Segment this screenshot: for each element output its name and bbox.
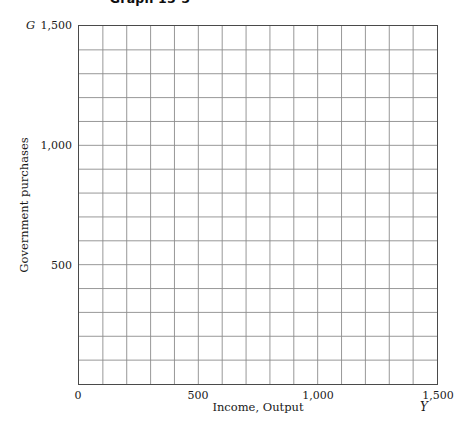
x-axis-title: Income, Output [78,400,438,414]
x-axis-variable-label: Y [420,400,428,414]
grid-lines [79,26,437,384]
plot-area[interactable] [78,25,438,385]
y-axis-tick-label: 1,500 [8,20,72,31]
y-axis-title: Government purchases [17,95,31,315]
